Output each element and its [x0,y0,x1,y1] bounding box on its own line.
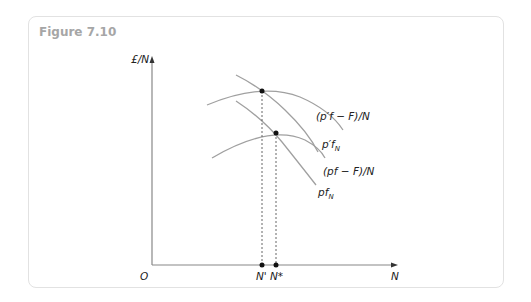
nstar-dot [274,263,279,268]
lower-equilibrium-dot [274,131,279,136]
label-pf-marginal: pfN [317,186,334,201]
label-pf-avg: (pf − F)/N [323,165,375,177]
x-axis-label: N [391,270,399,282]
tick-nstar: N* [270,270,283,282]
y-axis-arrow-icon [150,56,155,63]
y-axis-label: £/N [131,53,149,65]
tick-nprime: N' [256,270,267,282]
upper-equilibrium-dot [260,89,265,94]
label-pprime-avg: (p′f − F)/N [316,110,370,122]
origin-label: O [140,270,148,282]
economics-diagram: £/N O N N' N* (p′f − F)/N p′fN (pf − F)/… [0,0,531,302]
axes [150,56,399,268]
curve-pf-avg [212,135,325,158]
x-axis-arrow-icon [391,263,398,268]
dashed-guides [262,91,276,265]
label-pprime-marginal: p′fN [321,138,341,153]
nprime-dot [260,263,265,268]
